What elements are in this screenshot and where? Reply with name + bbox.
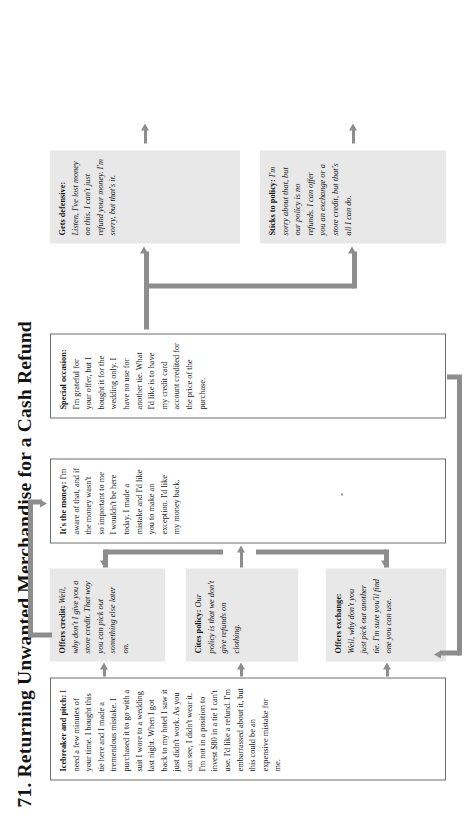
arrowhead-left-icon — [381, 560, 389, 567]
page-speck — [341, 493, 343, 495]
edge-sticks-to-policy-exit — [352, 129, 355, 143]
node-label: Special occasion: — [59, 349, 68, 409]
node-text: I'm aware of that, and if the money wasn… — [59, 467, 181, 534]
node-label: Icebreaker and pitch: — [59, 694, 68, 771]
node-label: It's the money: — [59, 481, 68, 534]
node-icebreaker-and-pitch: Icebreaker and pitch: I need a few minut… — [50, 677, 446, 780]
arrowhead-right-icon — [237, 662, 245, 669]
node-text: Listen, I've lost money on this. I can't… — [71, 158, 118, 235]
arrowhead-right-icon — [348, 246, 356, 253]
arrowhead-right-icon — [141, 123, 149, 130]
edge-loop-bottom-left-vertical — [440, 650, 460, 655]
node-label: Sticks to policy: — [268, 179, 277, 235]
arrowhead-right-icon — [383, 662, 391, 669]
edge-gets-defensive-exit — [144, 129, 147, 143]
node-label: Offers credit: — [58, 605, 67, 653]
arrowhead-up-icon — [434, 650, 441, 658]
edge-cites-policy-to-its-the-money — [240, 551, 243, 567]
node-label: Offers exchange: — [334, 593, 343, 653]
edge-loop-bottom-horizontal — [457, 375, 462, 655]
arrowhead-right-icon — [140, 246, 148, 253]
edge-special-occasion-to-gets-defensive — [144, 251, 149, 329]
edge-offers-exchange-to-its-the-money-vertical — [256, 549, 386, 554]
node-text: I need a few minutes of your time. I bou… — [59, 688, 282, 771]
node-special-occasion: Special occasion: I'm grateful for your … — [50, 333, 446, 418]
arrowhead-right-icon — [237, 545, 245, 552]
node-label: Cites policy: — [194, 609, 203, 653]
node-text: I'm sorry about that, but our policy is … — [268, 163, 353, 235]
node-offers-credit: Offers credit: Well, why don't I give yo… — [50, 568, 165, 661]
edge-special-occasion-to-sticks-to-policy-vertical — [144, 283, 354, 288]
node-its-the-money: It's the money: I'm aware of that, and i… — [50, 458, 446, 543]
arrowhead-left-icon — [100, 560, 108, 567]
edge-offers-credit-to-its-the-money-vertical — [105, 549, 223, 554]
arrowhead-down-icon — [40, 499, 47, 507]
node-offers-exchange: Offers exchange: Well, why don't you jus… — [326, 568, 446, 661]
page-frame: 71. Returning Unwanted Merchandise for a… — [0, 0, 464, 833]
node-cites-policy: Cites policy: Our policy is that we don'… — [186, 568, 298, 661]
edge-special-occasion-to-sticks-to-policy-horizontal — [352, 251, 357, 288]
edge-loop-top-horizontal — [28, 501, 33, 637]
node-text: I'm grateful for your offer, but I bough… — [72, 343, 207, 409]
arrowhead-right-icon — [349, 123, 357, 130]
arrowhead-right-icon — [100, 662, 108, 669]
node-gets-defensive: Gets defensive: Listen, I've lost money … — [50, 150, 240, 243]
flowchart-canvas: 71. Returning Unwanted Merchandise for a… — [0, 0, 464, 833]
node-label: Gets defensive: — [58, 181, 67, 235]
node-text: Well, why don't I give you a store credi… — [58, 580, 130, 653]
node-sticks-to-policy: Sticks to policy: I'm sorry about that, … — [260, 150, 446, 243]
node-text: Well, why don't you just pick out anothe… — [347, 579, 394, 653]
